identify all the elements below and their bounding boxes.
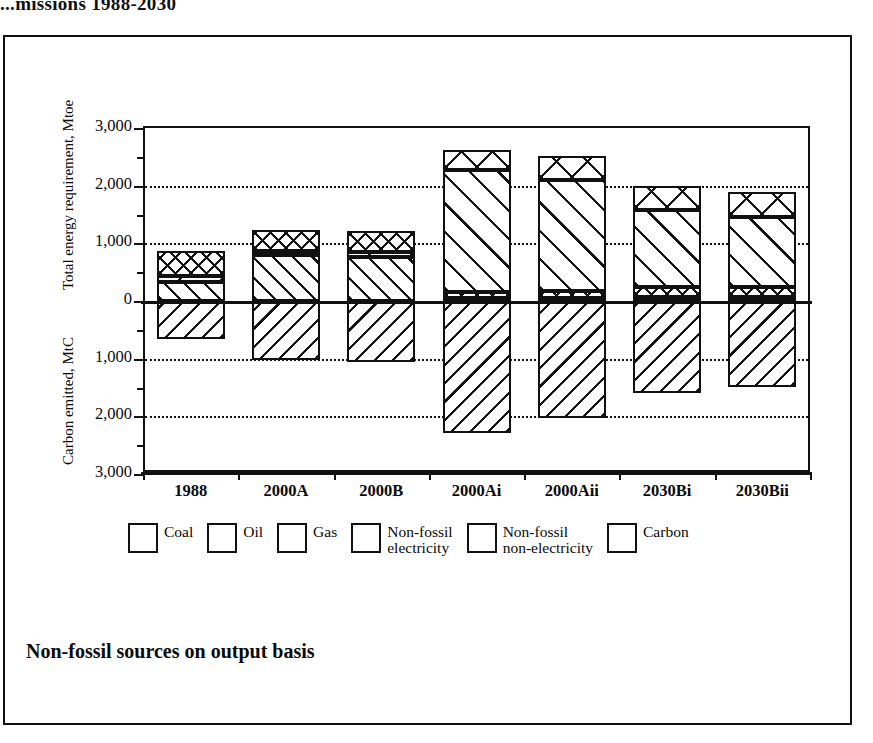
x-axis-label-2030Bii: 2030Bii [715,481,810,501]
bar-segment-2030Bii-nfne[interactable] [728,192,796,216]
y-tick--1000 [134,359,145,361]
y-tick-500 [137,272,145,274]
x-tick-5 [619,472,621,480]
x-tick-2 [334,472,336,480]
legend-item-nfne[interactable]: Non-fossil non-electricity [467,523,593,556]
y-tick-2500 [137,157,145,159]
x-axis-line [141,472,812,475]
x-tick-6 [715,472,717,480]
bar-segment-1988-coal[interactable] [157,282,225,301]
bar-group-2000A[interactable] [252,128,320,470]
legend-label-carbon: Carbon [643,523,689,540]
zero-line [141,301,812,304]
bar-group-1988[interactable] [157,128,225,470]
bar-segment-2030Bii-oil[interactable] [728,287,796,297]
y-tick--2000 [134,416,145,418]
x-axis-label-1988: 1988 [143,481,238,501]
legend-swatch-gas-icon [277,523,307,553]
legend-label-coal: Coal [164,523,193,540]
legend-label-nfe: Non-fossil electricity [387,523,452,556]
y-axis-title-top: Total energy requirement, Mtoe [60,100,77,290]
legend-swatch-coal-icon [128,523,158,553]
bar-segment-2000Ai-nfne[interactable] [443,150,511,169]
bar-segment-2030Bi-nfne[interactable] [633,186,701,211]
bar-segment-2000Aii-oil[interactable] [538,291,606,297]
bar-segment-1988-oil[interactable] [157,251,225,276]
y-tick-3000 [134,128,145,130]
chart-caption: Non-fossil sources on output basis [26,640,315,663]
y-tick--3000 [134,474,145,476]
y-tick-1500 [137,215,145,217]
y-axis-title-bottom: Carbon emitted, MtC [60,337,77,465]
bar-segment-2000Aii-carbon[interactable] [538,301,606,418]
bar-segment-2030Bi-carbon[interactable] [633,301,701,393]
chart-legend: CoalOilGasNon-fossil electricityNon-foss… [128,523,828,571]
y-tick-1000 [134,243,145,245]
y-tick--1500 [137,388,145,390]
bar-segment-2030Bii-nfe[interactable] [728,217,796,287]
bar-segment-1988-carbon[interactable] [157,301,225,339]
y-tick-2000 [134,186,145,188]
bar-segment-2000A-coal[interactable] [252,255,320,301]
bar-group-2000Ai[interactable] [443,128,511,470]
x-tick-1 [238,472,240,480]
bar-segment-2000A-carbon[interactable] [252,301,320,360]
bar-segment-2000B-carbon[interactable] [347,301,415,362]
bar-segment-2000B-gas[interactable] [347,252,415,257]
bar-segment-2030Bi-nfe[interactable] [633,210,701,287]
bar-group-2000Aii[interactable] [538,128,606,470]
x-tick-4 [524,472,526,480]
legend-item-gas[interactable]: Gas [277,523,337,553]
legend-item-carbon[interactable]: Carbon [607,523,689,553]
legend-swatch-nfe-icon [351,523,381,553]
x-axis-label-2000B: 2000B [334,481,429,501]
bar-group-2030Bi[interactable] [633,128,701,470]
bar-segment-2000Ai-nfe[interactable] [443,170,511,292]
bar-segment-2030Bi-oil[interactable] [633,287,701,297]
legend-label-nfne: Non-fossil non-electricity [503,523,593,556]
bar-segment-2000Ai-carbon[interactable] [443,301,511,433]
legend-swatch-oil-icon [207,523,237,553]
bar-segment-2000Ai-oil[interactable] [443,292,511,298]
x-axis-label-2000Ai: 2000Ai [429,481,524,501]
y-axis-label-0: 0 [0,289,132,309]
x-axis-label-2000Aii: 2000Aii [524,481,619,501]
x-axis-label-2000A: 2000A [238,481,333,501]
y-tick--500 [137,330,145,332]
legend-label-oil: Oil [243,523,263,540]
legend-label-gas: Gas [313,523,337,540]
bar-group-2030Bii[interactable] [728,128,796,470]
bar-segment-2000B-coal[interactable] [347,257,415,301]
bar-segment-2000A-oil[interactable] [252,230,320,250]
bar-segment-2000B-oil[interactable] [347,231,415,251]
x-tick-3 [429,472,431,480]
bar-group-2000B[interactable] [347,128,415,470]
x-tick-7 [810,472,812,480]
bar-segment-2000A-gas[interactable] [252,251,320,256]
bar-segment-2000Aii-nfe[interactable] [538,180,606,291]
legend-swatch-carbon-icon [607,523,637,553]
y-axis-label-3000: 3,000 [0,462,132,482]
legend-swatch-nfne-icon [467,523,497,553]
plot-area [143,126,810,472]
legend-item-oil[interactable]: Oil [207,523,263,553]
bar-segment-2000Aii-nfne[interactable] [538,156,606,181]
legend-item-nfe[interactable]: Non-fossil electricity [351,523,452,556]
y-tick--2500 [137,445,145,447]
bar-segment-2030Bii-carbon[interactable] [728,301,796,387]
bar-segment-1988-gas[interactable] [157,276,225,282]
legend-item-coal[interactable]: Coal [128,523,193,553]
x-axis-label-2030Bi: 2030Bi [619,481,714,501]
